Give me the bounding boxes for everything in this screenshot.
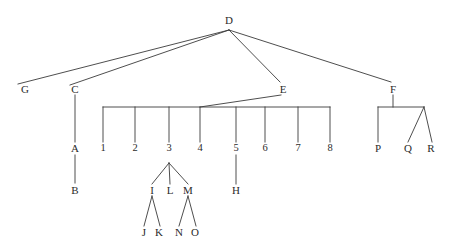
edge-m-o	[188, 196, 196, 226]
edge-f-r	[424, 107, 432, 142]
node-label-8: 8	[327, 143, 332, 154]
node-label-l: L	[167, 185, 174, 196]
node-label-e: E	[280, 84, 287, 95]
node-label-1: 1	[100, 143, 105, 154]
node-label-r: R	[427, 143, 434, 154]
edge-f-q	[408, 107, 424, 142]
node-label-5: 5	[233, 143, 238, 154]
edge-d-c	[70, 30, 229, 85]
node-label-3: 3	[166, 143, 171, 154]
tree-edges-canvas	[0, 0, 459, 252]
edge-m-n	[179, 196, 188, 226]
node-label-m: M	[183, 185, 193, 196]
node-label-c: C	[71, 84, 78, 95]
edge-3-l	[169, 163, 170, 184]
node-label-o: O	[191, 227, 199, 238]
node-label-n: N	[175, 227, 183, 238]
edge-d-f	[229, 30, 391, 82]
node-label-6: 6	[262, 143, 267, 154]
edge-d-g	[18, 30, 229, 84]
node-label-j: J	[142, 227, 146, 238]
edge-e-bar	[200, 95, 281, 107]
node-label-h: H	[232, 185, 240, 196]
edge-3-m	[169, 163, 188, 184]
node-label-q: Q	[404, 143, 412, 154]
node-label-g: G	[21, 84, 29, 95]
edge-3-i	[152, 163, 169, 184]
node-label-b: B	[71, 185, 78, 196]
node-label-k: K	[155, 227, 163, 238]
node-label-2: 2	[132, 143, 137, 154]
edge-i-j	[144, 196, 152, 226]
node-label-4: 4	[197, 143, 202, 154]
node-label-7: 7	[295, 143, 300, 154]
node-label-d: D	[225, 15, 233, 26]
node-label-p: P	[375, 143, 381, 154]
node-label-i: I	[150, 185, 154, 196]
node-label-a: A	[71, 143, 79, 154]
node-label-f: F	[390, 84, 396, 95]
tree-diagram: D G C E F A B 1 2 3 4 5 6 7 8 I L M H J …	[0, 0, 459, 252]
edge-i-k	[152, 196, 160, 226]
